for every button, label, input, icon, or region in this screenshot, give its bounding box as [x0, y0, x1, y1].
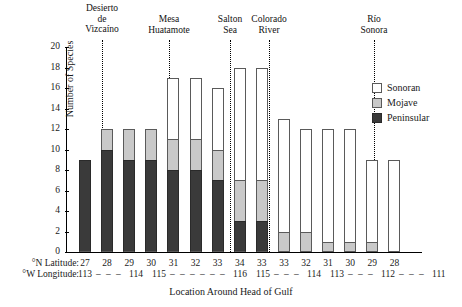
- longitude-tick-label: 112: [381, 269, 395, 279]
- y-tick-label: 2: [30, 226, 60, 236]
- x-axis-title: Location Around Head of Gulf: [0, 286, 462, 297]
- bar-segment-pen: [234, 221, 246, 252]
- longitude-tick-label: 115: [152, 269, 166, 279]
- bar: [300, 129, 312, 252]
- bar-segment-moj: [101, 129, 113, 150]
- bar-segment-son: [344, 129, 356, 242]
- longitude-tick-label: 114: [129, 269, 143, 279]
- y-axis-title: Number of Species: [64, 19, 75, 139]
- longitude-tick-label: –: [348, 269, 353, 279]
- bar-segment-moj: [167, 139, 179, 170]
- y-tick: [65, 232, 69, 233]
- bar-segment-son: [300, 129, 312, 232]
- bar-segment-son: [278, 119, 290, 232]
- bar-segment-son: [322, 129, 334, 242]
- longitude-tick-label: –: [274, 269, 279, 279]
- latitude-tick-label: 32: [298, 258, 314, 268]
- bar-segment-moj: [145, 129, 157, 160]
- longitude-tick-label: –: [368, 269, 373, 279]
- longitude-tick-label: –: [399, 269, 404, 279]
- figure: Desierto de VizcaínoMesa HuatamoteSalton…: [0, 0, 462, 307]
- legend: SonoranMojavePeninsular: [372, 80, 429, 125]
- latitude-tick-label: 33: [210, 258, 226, 268]
- longitude-tick-label: –: [116, 269, 121, 279]
- longitude-tick-label: –: [170, 269, 175, 279]
- longitude-tick-label: 113: [78, 269, 92, 279]
- region-label: Colorado River: [229, 14, 309, 35]
- bar-segment-moj: [344, 242, 356, 252]
- bar-segment-moj: [366, 242, 378, 252]
- bar-segment-pen: [79, 160, 91, 252]
- y-tick: [65, 150, 69, 151]
- y-tick: [65, 252, 69, 253]
- longitude-tick-label: 114: [307, 269, 321, 279]
- y-tick-label: 8: [30, 164, 60, 174]
- longitude-tick-label: –: [294, 269, 299, 279]
- longitude-tick-label: 115: [256, 269, 270, 279]
- bar-segment-pen: [256, 221, 268, 252]
- latitude-tick-label: 31: [320, 258, 336, 268]
- y-tick-label: 0: [30, 246, 60, 256]
- bar-segment-son: [366, 160, 378, 242]
- bar: [388, 160, 400, 252]
- latitude-tick-label: 28: [386, 258, 402, 268]
- legend-swatch-icon: [372, 98, 382, 108]
- latitude-tick-label: 33: [276, 258, 292, 268]
- longitude-tick-label: –: [284, 269, 289, 279]
- latitude-tick-label: 29: [364, 258, 380, 268]
- bar-segment-moj: [300, 232, 312, 253]
- longitude-tick-label: –: [190, 269, 195, 279]
- longitude-tick-label: –: [210, 269, 215, 279]
- longitude-tick-label: 116: [233, 269, 247, 279]
- longitude-tick-label: –: [220, 269, 225, 279]
- legend-item: Mojave: [372, 95, 429, 110]
- longitude-tick-label: 111: [432, 269, 446, 279]
- bar: [145, 129, 157, 252]
- bar: [278, 119, 290, 252]
- bar-segment-son: [256, 68, 268, 181]
- bar-segment-moj: [212, 150, 224, 181]
- latitude-tick-label: 32: [188, 258, 204, 268]
- bar-segment-pen: [212, 180, 224, 252]
- bar: [167, 78, 179, 252]
- bar: [190, 78, 202, 252]
- legend-label: Mojave: [387, 97, 418, 108]
- legend-item: Sonoran: [372, 80, 429, 95]
- region-label: Río Sonora: [334, 14, 414, 35]
- y-tick-label: 14: [30, 103, 60, 113]
- longitude-tick-label: –: [358, 269, 363, 279]
- bar-segment-moj: [190, 139, 202, 170]
- bar-segment-son: [167, 78, 179, 140]
- latitude-tick-label: 33: [254, 258, 270, 268]
- latitude-tick-label: 30: [342, 258, 358, 268]
- bar: [212, 88, 224, 252]
- bar-segment-pen: [101, 150, 113, 253]
- bar: [344, 129, 356, 252]
- longitude-tick-label: –: [180, 269, 185, 279]
- bar-segment-moj: [234, 180, 246, 221]
- latitude-tick-label: 28: [99, 258, 115, 268]
- bar: [322, 129, 334, 252]
- bar-segment-moj: [256, 180, 268, 221]
- bar-segment-pen: [167, 170, 179, 252]
- y-tick-label: 10: [30, 144, 60, 154]
- bar: [123, 129, 135, 252]
- y-tick-label: 16: [30, 82, 60, 92]
- legend-item: Peninsular: [372, 110, 429, 125]
- longitude-tick-label: –: [106, 269, 111, 279]
- y-tick-label: 4: [30, 205, 60, 215]
- y-tick: [65, 211, 69, 212]
- y-tick-label: 18: [30, 62, 60, 72]
- y-tick: [65, 191, 69, 192]
- latitude-axis-key: °N Latitude:: [32, 258, 79, 268]
- y-tick: [65, 170, 69, 171]
- bar: [366, 160, 378, 252]
- latitude-tick-label: 29: [121, 258, 137, 268]
- bar-segment-son: [234, 68, 246, 181]
- legend-label: Sonoran: [387, 82, 420, 93]
- bar: [101, 129, 113, 252]
- latitude-tick-label: 34: [232, 258, 248, 268]
- bar-segment-son: [190, 78, 202, 140]
- legend-swatch-icon: [372, 113, 382, 123]
- longitude-tick-label: –: [419, 269, 424, 279]
